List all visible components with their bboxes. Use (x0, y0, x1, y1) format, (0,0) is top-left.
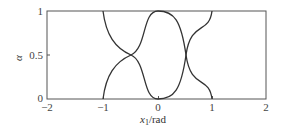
x-tick: 1 (209, 101, 215, 113)
series-arch (103, 11, 212, 99)
x-tick: −1 (97, 101, 109, 113)
chart: −2 −1 0 1 2 x1/rad 0 0.5 1 α (0, 0, 282, 127)
plot-frame (47, 11, 266, 99)
y-tick: 1 (38, 5, 44, 17)
y-tick: 0.5 (29, 49, 43, 61)
x-axis-label: x1/rad (139, 113, 166, 127)
y-axis-label: α (12, 55, 24, 61)
series (103, 11, 212, 99)
series-trough (103, 11, 212, 99)
x-axis: −2 −1 0 1 2 x1/rad (41, 96, 269, 127)
x-tick: 2 (263, 101, 269, 113)
y-axis: 0 0.5 1 α (12, 5, 50, 104)
x-tick: 0 (155, 101, 161, 113)
y-tick: 0 (38, 92, 44, 104)
